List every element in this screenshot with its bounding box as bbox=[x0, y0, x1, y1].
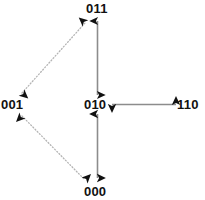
node-label-010: 010 bbox=[84, 98, 106, 111]
node-label-000: 000 bbox=[84, 185, 106, 198]
edge-001-000 bbox=[22, 116, 85, 180]
node-label-110: 110 bbox=[177, 98, 199, 111]
edge-001-011 bbox=[22, 23, 85, 93]
node-label-001: 001 bbox=[1, 98, 23, 111]
diagram-canvas: 011 001 010 110 000 bbox=[0, 0, 205, 200]
node-label-011: 011 bbox=[86, 2, 108, 15]
